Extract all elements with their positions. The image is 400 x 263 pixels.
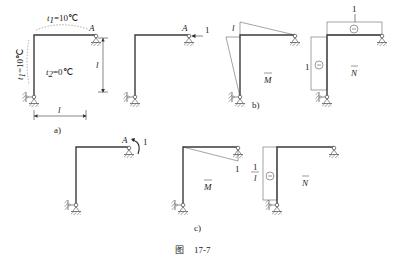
roller-support-icon bbox=[329, 146, 339, 158]
svg-text:l: l bbox=[58, 105, 61, 115]
svg-text:1: 1 bbox=[253, 162, 258, 172]
frame-members bbox=[34, 35, 96, 97]
top-temperature-dashline bbox=[36, 25, 88, 30]
width-dimension: l bbox=[34, 105, 86, 120]
unit-force-value: 1 bbox=[205, 25, 210, 35]
panel-c-axial-diagram: 1 l N bbox=[251, 146, 339, 215]
axial-left-value: 1 bbox=[305, 62, 310, 72]
base-support-icon bbox=[229, 92, 246, 107]
figure-caption: 图 17-7 bbox=[175, 245, 211, 255]
axial-diagram-title: N bbox=[350, 66, 358, 78]
panel-c-moment-diagram: 1 M bbox=[172, 146, 244, 215]
frame-members bbox=[76, 147, 129, 205]
base-support-icon bbox=[65, 200, 82, 215]
top-temperature-label: t1=10℃ bbox=[47, 13, 78, 25]
base-support-icon bbox=[266, 200, 283, 215]
left-temperature-dashline bbox=[27, 40, 29, 85]
panel-b-label: b) bbox=[252, 100, 260, 110]
roller-support-icon bbox=[91, 34, 101, 46]
moment-beam-triangle bbox=[240, 22, 295, 35]
moment-value-label: 1 bbox=[235, 164, 240, 174]
unit-moment-arrow-icon bbox=[132, 140, 139, 154]
svg-text:M: M bbox=[203, 182, 212, 192]
moment-diagram-title: M bbox=[203, 180, 212, 192]
base-support-icon bbox=[172, 200, 189, 215]
axial-column-block bbox=[311, 37, 327, 90]
figure-17-7: A t1=10℃ t1=10℃ t2=0℃ l l a) bbox=[0, 0, 400, 263]
axial-top-value: 1 bbox=[352, 4, 357, 14]
node-a-label: A bbox=[121, 135, 128, 145]
moment-diagram-title: M bbox=[263, 73, 272, 85]
panel-c-label: c) bbox=[194, 223, 201, 233]
moment-value-label: l bbox=[232, 23, 235, 33]
panel-c-unit-moment-frame: A 1 bbox=[65, 135, 148, 215]
left-temperature-label: t1=10℃ bbox=[15, 49, 27, 80]
base-support-icon bbox=[23, 92, 40, 107]
svg-text:17-7: 17-7 bbox=[194, 245, 211, 255]
svg-text:M: M bbox=[263, 75, 272, 85]
node-a-label: A bbox=[88, 23, 95, 33]
moment-column-triangle bbox=[226, 37, 240, 97]
moment-beam-triangle bbox=[183, 147, 238, 161]
axial-left-value-fraction: 1 l bbox=[251, 162, 259, 183]
inside-temperature-label: t2=0℃ bbox=[46, 67, 73, 79]
panel-a-temperature-frame: A t1=10℃ t1=10℃ t2=0℃ l l a) bbox=[15, 13, 108, 135]
svg-text:图: 图 bbox=[175, 245, 184, 255]
node-a-label: A bbox=[181, 23, 188, 33]
base-support-icon bbox=[316, 92, 333, 107]
panel-b-axial-diagram: 1 1 N b) bbox=[252, 4, 387, 110]
frame-members bbox=[135, 35, 189, 97]
panel-unit-force-frame: A 1 bbox=[124, 23, 210, 107]
panel-a-label: a) bbox=[54, 125, 61, 135]
frame-members bbox=[183, 147, 238, 205]
roller-support-icon bbox=[377, 34, 387, 46]
roller-support-icon bbox=[290, 34, 300, 46]
axial-column-block bbox=[263, 147, 277, 200]
svg-text:l: l bbox=[96, 60, 99, 70]
frame-members bbox=[240, 35, 295, 97]
height-dimension: l bbox=[96, 38, 108, 92]
svg-text:N: N bbox=[301, 178, 309, 188]
axial-diagram-title: N bbox=[301, 176, 309, 188]
unit-moment-value: 1 bbox=[143, 137, 148, 147]
base-support-icon bbox=[124, 92, 141, 107]
svg-text:N: N bbox=[350, 68, 358, 78]
svg-text:l: l bbox=[254, 173, 257, 183]
panel-b-moment-diagram: l M bbox=[226, 22, 300, 107]
roller-support-icon bbox=[124, 146, 134, 158]
